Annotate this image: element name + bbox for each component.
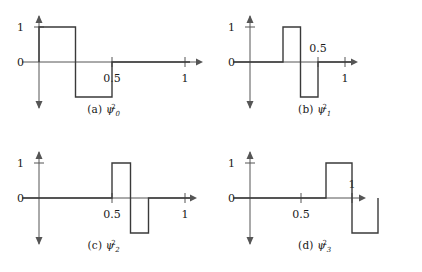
y-label-one-c: 1 bbox=[17, 157, 24, 170]
waveform-c bbox=[22, 163, 190, 233]
caption-sub-d: 3 bbox=[327, 246, 332, 254]
x-axis-arrow-a bbox=[196, 59, 203, 66]
haar-wavelet-figure: 1 0 0.5 1 (a) ψ20 1 0 bbox=[0, 0, 422, 272]
x-label-one-c: 1 bbox=[182, 208, 189, 221]
caption-sub-b: 1 bbox=[327, 110, 332, 118]
caption-d: (d) ψ23 bbox=[211, 239, 422, 251]
y-label-one-a: 1 bbox=[17, 21, 24, 34]
caption-b: (b) ψ21 bbox=[211, 103, 422, 115]
x-axis-arrow-b bbox=[351, 59, 358, 66]
x-label-half-b: 0.5 bbox=[309, 42, 327, 55]
y-axis-arrow-up-b bbox=[247, 15, 254, 23]
plot-d: 1 0 0.5 1 bbox=[211, 136, 422, 248]
y-label-one-d: 1 bbox=[228, 157, 235, 170]
panel-d: 1 0 0.5 1 (d) ψ23 bbox=[211, 136, 422, 272]
caption-tag-a: (a) bbox=[87, 103, 102, 115]
caption-c: (c) ψ22 bbox=[0, 239, 211, 251]
x-axis-arrow-c bbox=[190, 195, 197, 202]
y-axis-arrow-up-d bbox=[247, 151, 254, 159]
x-label-half-c: 0.5 bbox=[103, 208, 121, 221]
y-label-one-b: 1 bbox=[228, 21, 235, 34]
plot-c: 1 0 0.5 1 bbox=[0, 136, 211, 248]
caption-tag-d: (d) bbox=[298, 239, 314, 251]
caption-tag-b: (b) bbox=[298, 103, 314, 115]
plot-b: 1 0 0.5 1 bbox=[211, 0, 422, 112]
y-axis-arrow-up-a bbox=[36, 15, 43, 23]
caption-sub-c: 2 bbox=[115, 246, 120, 254]
y-axis-arrow-up-c bbox=[36, 151, 43, 159]
caption-tag-c: (c) bbox=[88, 239, 103, 251]
caption-sub-a: 0 bbox=[116, 110, 121, 118]
x-label-one-b: 1 bbox=[342, 72, 349, 85]
x-axis-arrow-d bbox=[359, 195, 366, 202]
panel-b: 1 0 0.5 1 (b) ψ21 bbox=[211, 0, 422, 136]
x-label-one-a: 1 bbox=[182, 72, 189, 85]
y-label-zero-a: 0 bbox=[17, 56, 24, 69]
caption-a: (a) ψ20 bbox=[0, 103, 211, 115]
x-label-half-d: 0.5 bbox=[292, 208, 310, 221]
panel-c: 1 0 0.5 1 (c) ψ22 bbox=[0, 136, 211, 272]
plot-a: 1 0 0.5 1 bbox=[0, 0, 211, 112]
panel-a: 1 0 0.5 1 (a) ψ20 bbox=[0, 0, 211, 136]
